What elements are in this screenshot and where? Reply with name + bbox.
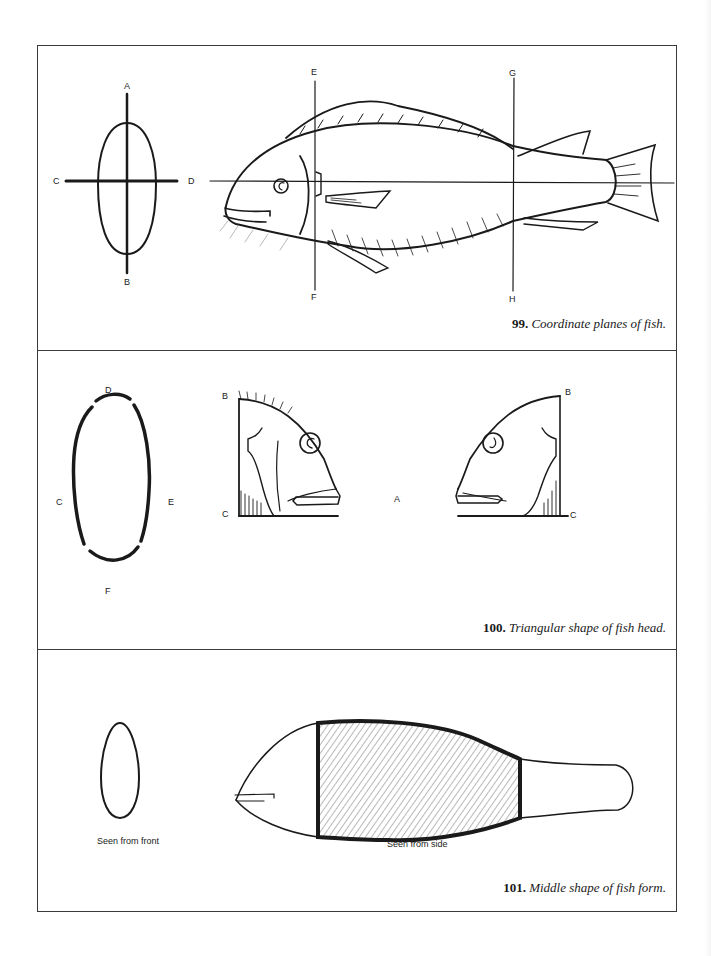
figure-number: 101. xyxy=(503,880,526,895)
figure-101-caption: 101. Middle shape of fish form. xyxy=(503,880,666,896)
label-c: C xyxy=(53,177,60,186)
figure-101-panel: Seen from front Seen from side 101. Midd… xyxy=(38,650,676,913)
figure-100-panel: D C E F B C A B C 100. Triangular shape … xyxy=(38,351,676,650)
figure-101-drawing xyxy=(38,650,678,913)
label-a: A xyxy=(124,82,130,91)
figure-caption-text: Coordinate planes of fish. xyxy=(531,316,666,331)
label-a: A xyxy=(394,495,400,504)
label-c: C xyxy=(56,498,63,507)
label-f: F xyxy=(105,587,111,596)
label-d: D xyxy=(188,177,195,186)
figure-frame: A B C D E F G H 99. Coordinate planes of… xyxy=(37,45,677,912)
label-b-right: B xyxy=(565,388,571,397)
figure-99-panel: A B C D E F G H 99. Coordinate planes of… xyxy=(38,46,676,351)
figure-caption-text: Triangular shape of fish head. xyxy=(509,620,666,635)
figure-99-drawing xyxy=(38,46,678,351)
figure-100-drawing xyxy=(38,351,678,650)
label-g: G xyxy=(509,69,516,78)
label-b: B xyxy=(124,278,130,287)
label-f: F xyxy=(311,293,317,302)
label-e: E xyxy=(311,68,317,77)
caption-seen-from-side: Seen from side xyxy=(387,839,448,849)
page-edge xyxy=(705,0,711,956)
label-c-left: C xyxy=(222,510,229,519)
label-e: E xyxy=(168,498,174,507)
figure-caption-text: Middle shape of fish form. xyxy=(529,880,666,895)
label-c-right: C xyxy=(570,511,577,520)
label-h: H xyxy=(509,295,516,304)
label-b-left: B xyxy=(222,392,228,401)
label-d: D xyxy=(105,386,112,395)
caption-seen-from-front: Seen from front xyxy=(97,836,159,846)
figure-number: 99. xyxy=(512,316,528,331)
figure-100-caption: 100. Triangular shape of fish head. xyxy=(483,620,666,636)
figure-number: 100. xyxy=(483,620,506,635)
figure-99-caption: 99. Coordinate planes of fish. xyxy=(512,316,666,332)
